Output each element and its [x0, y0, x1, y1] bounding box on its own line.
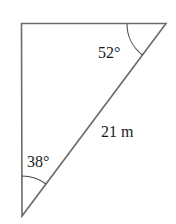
triangle-shape: [22, 24, 167, 217]
angle-label-bottom: 38°: [27, 153, 49, 170]
hypotenuse-label: 21 m: [101, 123, 134, 140]
angle-label-top-right: 52°: [98, 44, 120, 61]
triangle-diagram: 52° 21 m 38°: [0, 0, 176, 224]
angle-arc-bottom: [22, 176, 46, 184]
angle-arc-top-right: [127, 24, 143, 56]
